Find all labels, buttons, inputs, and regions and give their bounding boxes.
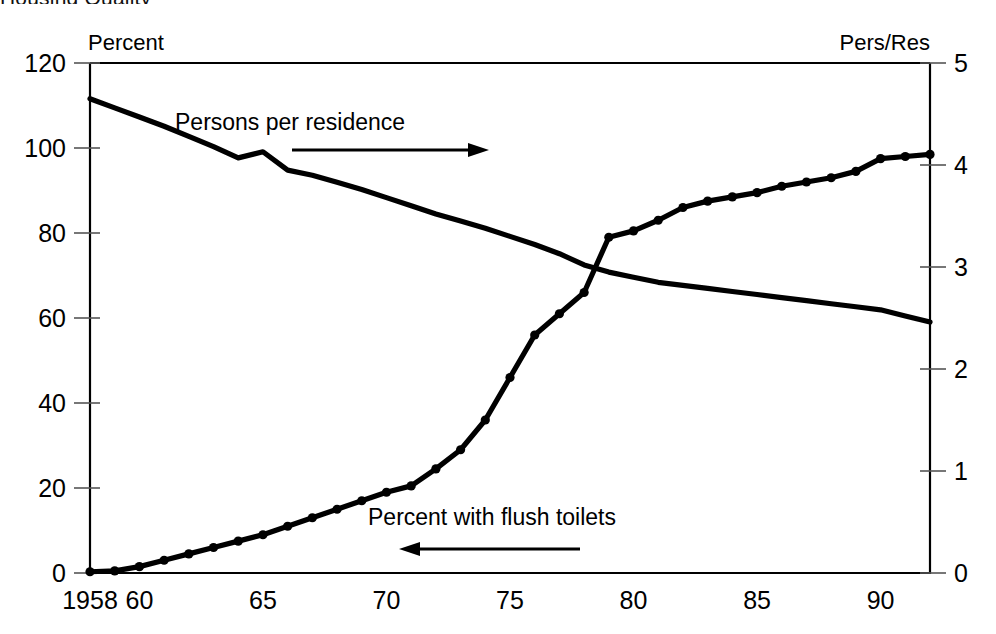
series-marker [629, 226, 638, 235]
series-marker [357, 496, 366, 505]
x-axis-ticks: 195860657075808590 [62, 586, 894, 614]
clipped-header-text: Housing Quality [0, 0, 996, 4]
series-marker [604, 233, 613, 242]
series-marker [283, 522, 292, 531]
series-marker [678, 203, 687, 212]
annotation-arrow-left [399, 542, 580, 556]
chart-figure: Housing Quality Percent Pers/Res 0204060… [0, 0, 996, 634]
series-marker [209, 543, 218, 552]
series-marker [876, 154, 885, 163]
series-annotation-toilets: Percent with flush toilets [368, 504, 616, 530]
annotation-arrow-right [292, 143, 489, 157]
series-marker [851, 167, 860, 176]
series-marker [777, 182, 786, 191]
x-tick-label: 1958 [62, 586, 118, 614]
right-tick-label: 0 [954, 559, 968, 587]
left-tick-label: 0 [52, 559, 66, 587]
left-tick-label: 40 [38, 389, 66, 417]
series-marker [654, 216, 663, 225]
series-marker [802, 177, 811, 186]
series-marker [505, 373, 514, 382]
x-tick-label: 60 [126, 586, 154, 614]
x-tick-label: 75 [496, 586, 524, 614]
series-marker [308, 513, 317, 522]
x-tick-label: 70 [373, 586, 401, 614]
left-tick-label: 80 [38, 219, 66, 247]
series-marker [703, 197, 712, 206]
series-marker [184, 549, 193, 558]
left-tick-label: 120 [24, 49, 66, 77]
right-tick-label: 2 [954, 355, 968, 383]
right-tick-label: 5 [954, 49, 968, 77]
left-axis-title: Percent [88, 30, 164, 55]
plot-frame [90, 63, 930, 573]
series-marker [431, 464, 440, 473]
series-marker [85, 567, 94, 576]
series-marker [530, 330, 539, 339]
x-tick-label: 65 [249, 586, 277, 614]
x-tick-label: 80 [620, 586, 648, 614]
series-marker [752, 188, 761, 197]
series-marker [234, 537, 243, 546]
series-marker [580, 288, 589, 297]
series-marker [555, 309, 564, 318]
series-marker [135, 562, 144, 571]
left-tick-label: 60 [38, 304, 66, 332]
series-annotation-persons: Persons per residence [175, 109, 405, 135]
series-marker [258, 530, 267, 539]
series-marker [728, 192, 737, 201]
right-tick-label: 3 [954, 253, 968, 281]
series-marker [456, 445, 465, 454]
series-marker [332, 505, 341, 514]
left-tick-label: 100 [24, 134, 66, 162]
line-chart: Percent Pers/Res 020406080100120 012345 … [0, 0, 996, 634]
x-tick-label: 90 [867, 586, 895, 614]
series-marker [160, 556, 169, 565]
series-marker [407, 481, 416, 490]
right-axis-title: Pers/Res [840, 30, 930, 55]
left-tick-label: 20 [38, 474, 66, 502]
right-tick-label: 4 [954, 151, 968, 179]
series-marker [110, 566, 119, 575]
series-marker [481, 415, 490, 424]
x-tick-label: 85 [743, 586, 771, 614]
right-tick-label: 1 [954, 457, 968, 485]
series-marker [827, 173, 836, 182]
series-marker [901, 152, 910, 161]
series-marker [925, 150, 934, 159]
series-marker [382, 488, 391, 497]
right-axis-ticks: 012345 [920, 49, 968, 587]
left-axis-ticks: 020406080100120 [24, 49, 100, 587]
